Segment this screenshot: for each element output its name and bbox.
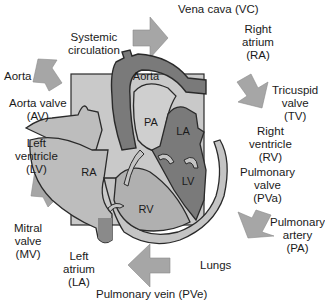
label-aorta: Aorta (4, 70, 32, 83)
label-aorta-valve: Aorta valve (AV) (9, 97, 67, 123)
label-systemic-circulation: Systemic circulation (68, 31, 120, 57)
arrow-aorta (33, 59, 62, 91)
label-pa-chamber: PA (144, 116, 159, 128)
label-pulmonary-artery: Pulmonary artery (PA) (270, 216, 325, 255)
label-pulmonary-vein: Pulmonary vein (PVe) (96, 288, 207, 301)
label-lv-chamber: LV (182, 175, 195, 187)
label-tricuspid-valve: Tricuspid valve (TV) (272, 84, 318, 123)
label-rv-chamber: RV (138, 203, 154, 215)
label-pulmonary-valve: Pulmonary valve (PVa) (240, 166, 295, 205)
label-lungs: Lungs (200, 259, 231, 272)
label-ra-chamber: RA (81, 166, 97, 178)
label-right-atrium: Right atrium (RA) (242, 23, 274, 62)
label-vena-cava: Vena cava (VC) (178, 3, 259, 16)
label-left-atrium: Left atrium (LA) (63, 250, 95, 289)
arrow-vena-cava (133, 17, 168, 58)
label-left-ventricle: Left ventricle (LV) (15, 137, 58, 176)
label-right-ventricle: Right ventricle (RV) (249, 125, 292, 164)
arrow-pulmonary-vein (128, 244, 170, 287)
arrow-pulmonary-artery (238, 210, 274, 238)
label-aorta-chamber: Aorta (133, 70, 160, 82)
label-la-chamber: LA (176, 125, 190, 137)
arrow-tricuspid (237, 74, 268, 108)
label-mitral-valve: Mitral valve (MV) (14, 222, 42, 261)
